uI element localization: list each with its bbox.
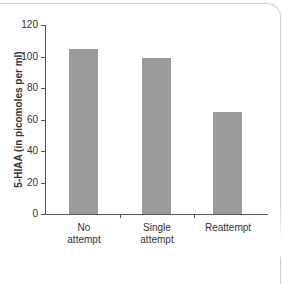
bar	[69, 49, 98, 214]
y-tick-label: 80	[8, 83, 38, 93]
x-category-line: attempt	[49, 234, 119, 246]
y-tick-label: 0	[8, 209, 38, 219]
y-tick	[41, 151, 45, 152]
x-category-label: Singleattempt	[122, 222, 192, 246]
x-category-line	[193, 234, 263, 246]
x-category-line: No	[49, 222, 119, 234]
frame-fade	[277, 200, 283, 257]
y-tick	[41, 25, 45, 26]
y-tick-label: 100	[8, 52, 38, 62]
y-tick	[41, 214, 45, 215]
x-tick	[194, 214, 195, 218]
y-axis	[45, 25, 46, 214]
y-tick-label: 40	[8, 146, 38, 156]
y-tick-label: 120	[8, 20, 38, 30]
bar	[213, 112, 242, 214]
y-tick	[41, 88, 45, 89]
y-tick	[41, 183, 45, 184]
x-tick	[120, 214, 121, 218]
y-tick-label: 20	[8, 178, 38, 188]
x-axis	[45, 214, 268, 215]
x-category-label: Noattempt	[49, 222, 119, 246]
y-tick	[41, 120, 45, 121]
x-category-line: attempt	[122, 234, 192, 246]
bar	[142, 58, 171, 214]
x-category-label: Reattempt	[193, 222, 263, 246]
y-tick-label: 60	[8, 115, 38, 125]
x-category-line: Single	[122, 222, 192, 234]
x-category-line: Reattempt	[193, 222, 263, 234]
y-tick	[41, 57, 45, 58]
